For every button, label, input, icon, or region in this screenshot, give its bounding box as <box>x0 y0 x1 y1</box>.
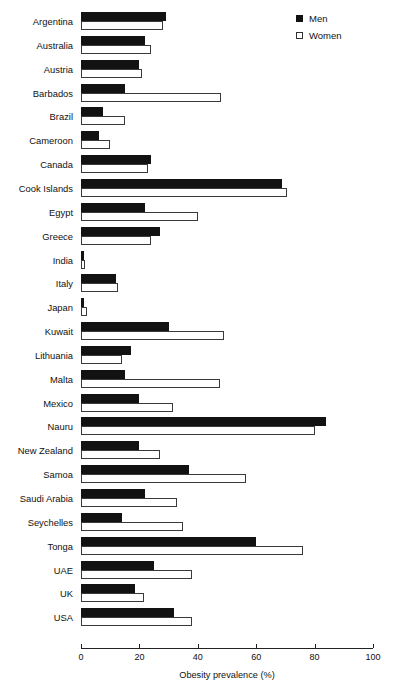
category-label: Lithuania <box>0 344 73 368</box>
category-label: India <box>0 249 73 273</box>
bar-women <box>81 283 118 292</box>
category-label: UAE <box>0 559 73 583</box>
bar-women <box>81 140 110 149</box>
bar-women <box>81 450 160 459</box>
chart-row: Tonga <box>0 535 420 559</box>
chart-row: Cameroon <box>0 129 420 153</box>
category-label: Italy <box>0 272 73 296</box>
bar-men <box>81 251 84 260</box>
x-axis-line <box>81 648 373 649</box>
x-tick <box>81 644 82 648</box>
bar-women <box>81 212 198 221</box>
category-label: Malta <box>0 368 73 392</box>
plot-area: ArgentinaAustraliaAustriaBarbadosBrazilC… <box>0 0 420 695</box>
category-label: New Zealand <box>0 439 73 463</box>
bar-men <box>81 584 135 593</box>
bar-men <box>81 298 84 307</box>
category-label: Samoa <box>0 463 73 487</box>
bar-women <box>81 426 315 435</box>
bar-men <box>81 394 139 403</box>
x-axis-label: Obesity prevalence (%) <box>81 670 373 680</box>
bar-men <box>81 227 160 236</box>
category-label: Cook Islands <box>0 177 73 201</box>
bar-women <box>81 164 148 173</box>
bar-women <box>81 379 220 388</box>
bar-women <box>81 498 177 507</box>
bar-women <box>81 474 246 483</box>
x-tick <box>373 644 374 648</box>
chart-row: Australia <box>0 34 420 58</box>
category-label: Japan <box>0 296 73 320</box>
x-tick-label: 80 <box>310 652 320 662</box>
bar-women <box>81 188 287 197</box>
category-label: Barbados <box>0 82 73 106</box>
bar-women <box>81 403 173 412</box>
bar-women <box>81 570 192 579</box>
chart-row: Mexico <box>0 392 420 416</box>
chart-row: Lithuania <box>0 344 420 368</box>
chart-row: Greece <box>0 225 420 249</box>
x-tick <box>198 644 199 648</box>
chart-row: USA <box>0 606 420 630</box>
bar-women <box>81 617 192 626</box>
bar-men <box>81 465 189 474</box>
bar-men <box>81 131 99 140</box>
bar-women <box>81 522 183 531</box>
chart-row: Argentina <box>0 10 420 34</box>
bar-men <box>81 513 122 522</box>
category-label: Seychelles <box>0 511 73 535</box>
bar-women <box>81 593 144 602</box>
category-label: Tonga <box>0 535 73 559</box>
chart-row: UAE <box>0 559 420 583</box>
category-label: Greece <box>0 225 73 249</box>
bar-men <box>81 179 282 188</box>
bar-men <box>81 155 151 164</box>
category-label: Australia <box>0 34 73 58</box>
bar-men <box>81 107 103 116</box>
chart-row: Japan <box>0 296 420 320</box>
category-label: Canada <box>0 153 73 177</box>
bar-men <box>81 322 169 331</box>
chart-row: Cook Islands <box>0 177 420 201</box>
x-tick <box>315 644 316 648</box>
bar-men <box>81 370 125 379</box>
x-tick-label: 100 <box>365 652 380 662</box>
chart-row: Barbados <box>0 82 420 106</box>
bar-men <box>81 537 256 546</box>
chart-row: Egypt <box>0 201 420 225</box>
bar-women <box>81 21 163 30</box>
bar-men <box>81 417 326 426</box>
chart-row: Samoa <box>0 463 420 487</box>
category-label: UK <box>0 582 73 606</box>
chart-row: New Zealand <box>0 439 420 463</box>
bar-women <box>81 45 151 54</box>
chart-row: Canada <box>0 153 420 177</box>
chart-row: Kuwait <box>0 320 420 344</box>
chart-row: Italy <box>0 272 420 296</box>
chart-row: Austria <box>0 58 420 82</box>
category-label: USA <box>0 606 73 630</box>
bar-men <box>81 203 145 212</box>
category-label: Nauru <box>0 415 73 439</box>
bar-men <box>81 608 174 617</box>
chart-row: Nauru <box>0 415 420 439</box>
chart-row: Saudi Arabia <box>0 487 420 511</box>
x-tick-label: 0 <box>78 652 83 662</box>
bar-women <box>81 307 87 316</box>
bar-women <box>81 236 151 245</box>
chart-row: UK <box>0 582 420 606</box>
category-label: Austria <box>0 58 73 82</box>
bar-women <box>81 116 125 125</box>
bar-men <box>81 12 166 21</box>
bar-women <box>81 331 224 340</box>
bar-women <box>81 69 142 78</box>
x-axis: 020406080100 Obesity prevalence (%) <box>0 648 420 695</box>
bar-men <box>81 561 154 570</box>
x-tick-label: 60 <box>251 652 261 662</box>
bar-women <box>81 260 85 269</box>
category-label: Cameroon <box>0 129 73 153</box>
chart-row: India <box>0 249 420 273</box>
obesity-prevalence-bar-chart: Men Women ArgentinaAustraliaAustriaBarba… <box>0 0 420 695</box>
bar-men <box>81 84 125 93</box>
bar-men <box>81 441 139 450</box>
